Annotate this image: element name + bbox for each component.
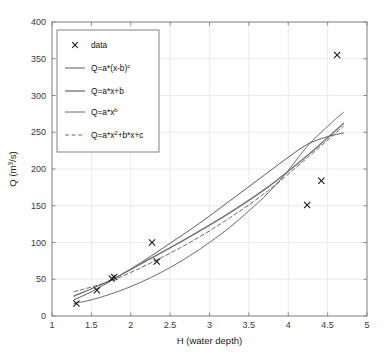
y-axis-title-text: Q (m3/s): [7, 151, 18, 186]
y-tick-label: 200: [31, 164, 46, 174]
x-tick-label: 2.5: [164, 320, 177, 330]
x-tick-label: 3: [207, 320, 212, 330]
y-tick-label: 300: [31, 91, 46, 101]
legend-label: Q=a*(x-b)c: [91, 63, 130, 73]
x-tick-labels: 11.522.533.544.55: [49, 320, 369, 330]
y-axis-title: Q (m3/s): [7, 151, 18, 186]
chart-legend: dataQ=a*(x-b)cQ=a*x+bQ=a*xbQ=a*x2+b*x+c: [57, 30, 159, 152]
figure-canvas: 11.522.533.544.55 0501001502002503003504…: [0, 0, 387, 361]
legend-label: Q=a*x2+b*x+c: [91, 130, 143, 140]
x-tick-label: 2: [128, 320, 133, 330]
chart-plot: 11.522.533.544.55 0501001502002503003504…: [0, 0, 387, 361]
legend-label: data: [91, 40, 108, 50]
y-tick-label: 350: [31, 54, 46, 64]
x-tick-label: 4.5: [321, 320, 334, 330]
x-tick-label: 1.5: [85, 320, 98, 330]
x-tick-label: 5: [364, 320, 369, 330]
x-tick-label: 3.5: [243, 320, 256, 330]
y-tick-label: 0: [41, 311, 46, 321]
y-tick-label: 150: [31, 201, 46, 211]
x-tick-label: 1: [49, 320, 54, 330]
x-axis-title: H (water depth): [177, 335, 242, 346]
y-tick-label: 400: [31, 17, 46, 27]
y-tick-label: 100: [31, 238, 46, 248]
y-tick-label: 50: [36, 274, 46, 284]
legend-label: Q=a*xb: [91, 107, 118, 117]
y-tick-label: 250: [31, 127, 46, 137]
legend-label: Q=a*x+b: [91, 86, 124, 96]
x-tick-label: 4: [286, 320, 291, 330]
